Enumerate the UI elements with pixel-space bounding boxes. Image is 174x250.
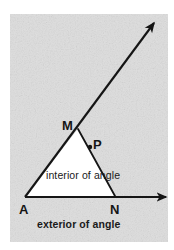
- shaded-exterior-region: [10, 14, 168, 242]
- vertex-label-N: N: [110, 203, 119, 216]
- vertex-label-M: M: [62, 119, 73, 132]
- exterior-region-label: exterior of angle: [37, 219, 120, 230]
- point-label-P: P: [93, 138, 102, 151]
- geometry-figure: A M N P interior of angle exterior of an…: [0, 0, 174, 250]
- vertex-label-A: A: [19, 203, 28, 216]
- interior-region-label: interior of angle: [46, 170, 120, 181]
- point-marker-P: [88, 145, 92, 149]
